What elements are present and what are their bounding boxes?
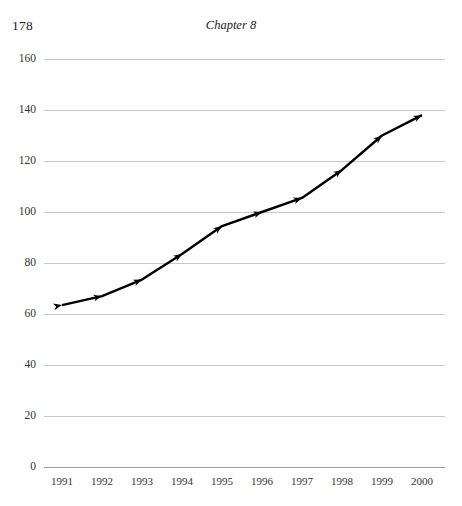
book-page: 178 Chapter 8 020406080100120140160 1991… xyxy=(0,0,462,506)
data-point-marker xyxy=(413,112,424,122)
data-series-layer xyxy=(0,0,462,506)
data-point-marker xyxy=(53,302,63,310)
line-chart: 020406080100120140160 199119921993199419… xyxy=(0,0,462,506)
data-point-marker xyxy=(133,276,143,286)
series-markers xyxy=(53,112,424,310)
series-line xyxy=(62,115,422,305)
